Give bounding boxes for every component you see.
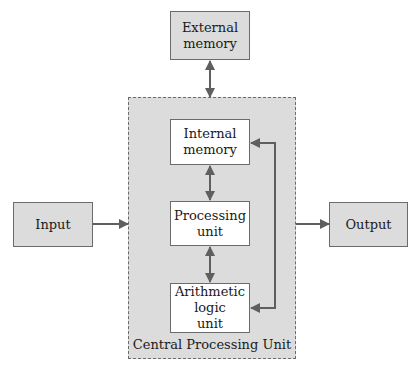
arrow-alu-internal-loop — [251, 143, 275, 308]
cpu-architecture-diagram: Central Processing Unit External memory … — [0, 0, 418, 368]
connector-arrows — [0, 0, 418, 368]
